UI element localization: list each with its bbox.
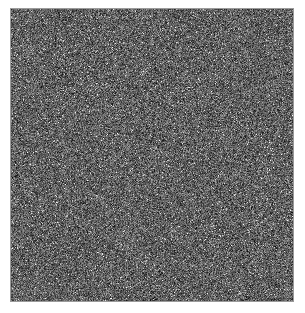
noise-image <box>11 9 293 301</box>
noise-image-frame <box>10 8 294 302</box>
